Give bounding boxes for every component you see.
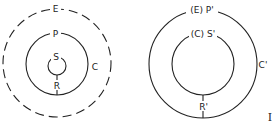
right-figure: (E) P' (C) S' R' C' [149,4,267,118]
label-c-s-prime: (C) S' [191,29,215,39]
left-figure: E P S R C [3,3,111,117]
diagram-canvas: E P S R C (E) P' (C) S' R' C' I [0,0,274,127]
label-e: E [53,4,59,14]
label-c: C [92,62,98,72]
label-p: P [53,29,59,39]
label-e-p-prime: (E) P' [190,5,213,15]
circle-inner [172,33,234,95]
corner-mark: I [268,111,272,124]
label-r: R [54,81,60,91]
label-s: S [53,52,59,62]
label-c-prime: C' [259,60,268,70]
label-r-prime: R' [199,102,208,112]
